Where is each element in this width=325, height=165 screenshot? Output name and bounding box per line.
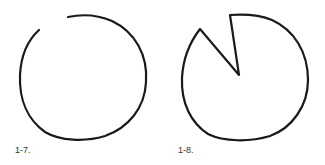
open-circle-drawing — [0, 0, 160, 165]
notched-circle-drawing — [160, 0, 325, 165]
figure-label: 1-7. — [15, 145, 31, 155]
figure-label: 1-8. — [178, 145, 194, 155]
figure-1-8: 1-8. — [160, 0, 325, 165]
figure-1-7: 1-7. — [0, 0, 160, 165]
